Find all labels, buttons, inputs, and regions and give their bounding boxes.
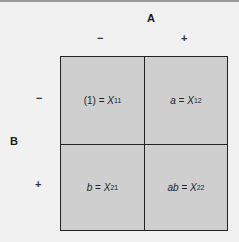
cell-x22: ab = X22 [144, 144, 227, 231]
design-grid: (1) = X11 a = X12 b = X21 ab = X22 [60, 56, 228, 231]
factor-b-level-minus: − [36, 92, 42, 104]
cell-subscript: 21 [110, 184, 118, 191]
factor-a-label: A [147, 12, 155, 24]
factor-b-level-plus: + [35, 178, 41, 190]
cell-subscript: 11 [114, 97, 121, 104]
equals-sign: = [176, 95, 187, 106]
cell-subscript: 12 [194, 97, 202, 104]
factor-a-level-plus: + [181, 32, 187, 44]
cell-var: X [187, 95, 194, 106]
equals-sign: = [92, 182, 103, 193]
factor-b-label: B [10, 135, 18, 147]
cell-var: X [104, 182, 111, 193]
factor-a-level-minus: − [97, 32, 103, 44]
cell-var: X [190, 182, 197, 193]
equals-sign: = [96, 95, 107, 106]
cell-symbol: (1) [84, 95, 96, 106]
top-border [0, 0, 239, 2]
cell-subscript: 22 [197, 184, 205, 191]
equals-sign: = [179, 182, 190, 193]
cell-var: X [107, 95, 114, 106]
cell-x12: a = X12 [144, 57, 227, 144]
cell-x21: b = X21 [61, 144, 144, 231]
cell-x11: (1) = X11 [61, 57, 144, 144]
cell-symbol: ab [168, 182, 179, 193]
